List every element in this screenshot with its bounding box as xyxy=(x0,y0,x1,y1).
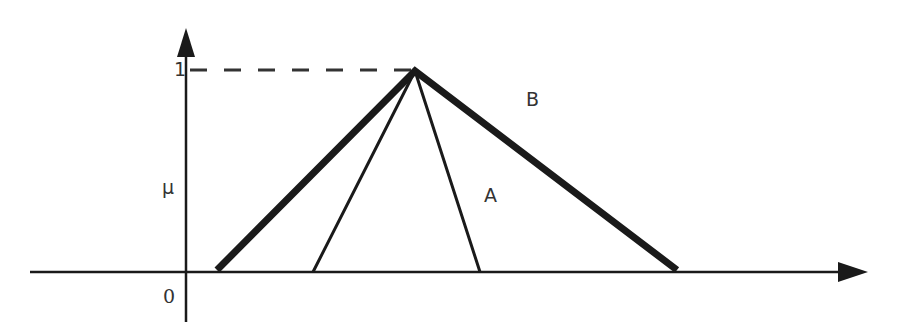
tick-label-one: 1 xyxy=(174,58,186,80)
x-axis-arrow-icon xyxy=(838,262,868,282)
set-a-label: A xyxy=(484,184,497,206)
y-axis-label-mu: μ xyxy=(162,176,174,198)
membership-diagram xyxy=(0,0,909,335)
y-axis-arrow-icon xyxy=(177,28,195,57)
set-b-label: B xyxy=(526,88,539,110)
origin-label: 0 xyxy=(163,285,175,307)
